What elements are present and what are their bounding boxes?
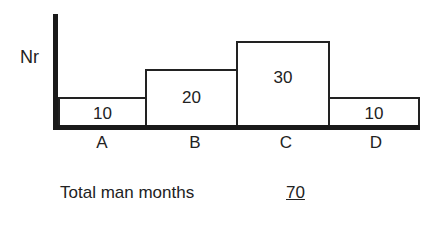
x-tick-d: D xyxy=(356,133,396,153)
bar-c: 30 xyxy=(236,41,330,125)
bar-value: 30 xyxy=(274,68,293,88)
y-axis-label: Nr xyxy=(20,47,39,68)
bar-a: 10 xyxy=(58,97,147,125)
total-label: Total man months xyxy=(60,183,194,203)
bar-value: 10 xyxy=(365,104,384,124)
bar-d: 10 xyxy=(328,97,420,125)
bar-value: 20 xyxy=(182,88,201,108)
bar-value: 10 xyxy=(93,104,112,124)
total-value: 70 xyxy=(286,183,305,203)
x-tick-c: C xyxy=(266,133,306,153)
x-tick-b: B xyxy=(175,133,215,153)
x-axis xyxy=(53,125,420,130)
bar-b: 20 xyxy=(145,69,238,125)
x-tick-a: A xyxy=(82,133,122,153)
